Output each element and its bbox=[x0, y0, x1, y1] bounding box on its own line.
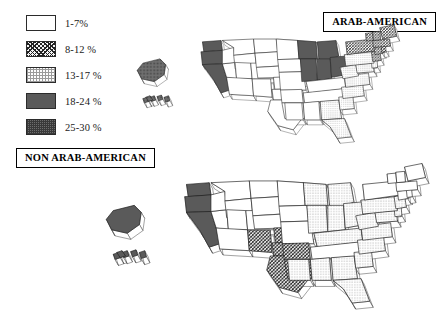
state-IN bbox=[317, 59, 331, 80]
state-VT bbox=[387, 173, 397, 183]
choropleth-map-arab-american bbox=[96, 22, 448, 144]
state-IA bbox=[278, 59, 302, 72]
state-WA bbox=[202, 40, 222, 51]
state-VT bbox=[366, 33, 374, 42]
state-MN bbox=[277, 181, 305, 206]
map-svg bbox=[96, 22, 448, 144]
state-ID bbox=[211, 191, 227, 211]
map-state-faces bbox=[137, 25, 397, 138]
state-WA bbox=[187, 183, 211, 197]
legend-swatch-1-7 bbox=[26, 15, 56, 31]
legend-swatch-25-30 bbox=[26, 119, 56, 135]
state-AZ bbox=[216, 228, 249, 251]
state-AL bbox=[310, 258, 331, 281]
state-IL bbox=[300, 59, 317, 82]
choropleth-map-non-arab-american bbox=[96, 160, 448, 310]
state-MS bbox=[285, 103, 303, 120]
legend-label-1-7: 1-7% bbox=[65, 18, 88, 29]
map-state-faces bbox=[106, 163, 425, 303]
state-AR bbox=[281, 89, 304, 102]
state-ND bbox=[249, 181, 279, 198]
state-NE bbox=[253, 214, 284, 229]
state-NE bbox=[256, 66, 282, 78]
state-OR bbox=[201, 50, 224, 64]
state-AR bbox=[282, 243, 310, 260]
state-MS bbox=[288, 259, 311, 280]
state-ID bbox=[222, 48, 235, 64]
state-ND bbox=[254, 39, 278, 53]
state-IN bbox=[328, 205, 345, 231]
state-ME bbox=[405, 163, 426, 180]
state-UT bbox=[235, 62, 252, 78]
legend-swatch-18-24 bbox=[26, 93, 56, 109]
map-svg bbox=[96, 160, 448, 310]
state-NH bbox=[373, 31, 381, 40]
state-AL bbox=[303, 101, 320, 119]
legend-label-8-12: 8-12 % bbox=[65, 44, 96, 55]
state-UT bbox=[227, 210, 248, 230]
state-ME bbox=[380, 25, 397, 39]
figure-choropleth-pair: 1-7% 8-12 % 13-17 % 18-24 % 25-30 % ARAB… bbox=[0, 0, 448, 317]
state-FL bbox=[333, 279, 370, 303]
state-WI bbox=[298, 40, 318, 58]
state-NM bbox=[252, 79, 272, 97]
state-GA bbox=[331, 256, 357, 280]
state-IL bbox=[307, 205, 328, 233]
state-AZ bbox=[227, 77, 254, 95]
state-WI bbox=[303, 183, 327, 206]
state-NH bbox=[396, 171, 406, 182]
state-WV bbox=[340, 65, 358, 79]
state-NM bbox=[248, 230, 272, 253]
state-SD bbox=[251, 197, 281, 216]
state-MN bbox=[276, 39, 299, 60]
legend-swatch-8-12 bbox=[26, 41, 56, 57]
state-SD bbox=[255, 52, 279, 68]
state-GA bbox=[320, 100, 341, 120]
legend-swatch-13-17 bbox=[26, 67, 56, 83]
state-FL bbox=[322, 118, 352, 138]
state-IA bbox=[279, 205, 309, 222]
state-WV bbox=[356, 212, 379, 229]
state-OR bbox=[185, 195, 213, 212]
